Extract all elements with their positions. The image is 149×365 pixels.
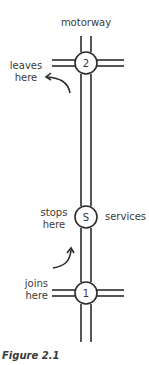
motorway-title: motorway [60,17,112,29]
services-label-s: S [83,212,89,223]
figure-caption: Figure 2.1 [2,350,59,361]
motorway-diagram: 2 S 1 [0,0,149,365]
junction-1-label: 1 [83,288,89,299]
joins-here-label: joins here [14,278,48,302]
stops-here-label: stops here [34,207,74,231]
leaves-here-label: leaves here [6,60,46,84]
joins-arrow-icon [53,250,71,268]
services-label: services [105,211,146,223]
junction-2-label: 2 [83,58,89,69]
